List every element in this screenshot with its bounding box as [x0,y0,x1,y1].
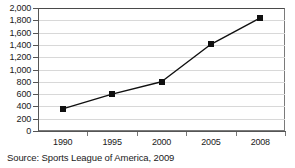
gridline [38,106,285,107]
source-note: Source: Sports League of America, 2009 [7,152,174,163]
y-axis-tick [33,57,38,58]
y-axis-tick [33,131,38,132]
y-axis-tick [33,119,38,120]
y-axis-tick-label: 400 [0,102,31,111]
gridline [38,33,285,34]
y-axis-tick-label: 1,800 [0,16,31,25]
y-axis-tick-label: 1,200 [0,53,31,62]
y-axis-tick-label: 1,600 [0,29,31,38]
x-axis-tick-label: 2000 [152,138,171,147]
gridline [38,20,285,21]
y-axis-tick [33,33,38,34]
y-axis-tick-label: 200 [0,115,31,124]
y-axis-tick [33,82,38,83]
y-axis-tick-label: 2,000 [0,4,31,13]
gridline [38,70,285,71]
y-axis-tick-label: 800 [0,78,31,87]
data-point-marker [257,15,263,21]
x-axis-tick-label: 2005 [201,138,220,147]
y-axis-tick-label: 0 [0,127,31,136]
x-axis-tick [87,132,88,136]
x-axis-line [38,131,286,132]
data-point-marker [109,91,115,97]
x-axis-tick-label: 1995 [102,138,121,147]
x-axis-tick-label: 2008 [251,138,270,147]
x-axis-tick [137,132,138,136]
data-point-marker [159,79,165,85]
y-axis-tick-label: 1,400 [0,41,31,50]
gridline [38,119,285,120]
gridline [38,45,285,46]
gridline [38,94,285,95]
x-axis-tick [236,132,237,136]
y-axis-line [38,8,39,132]
y-axis-tick [33,45,38,46]
y-axis-tick-label: 1,000 [0,66,31,75]
chart-figure: 02004006008001,0001,2001,4001,6001,8002,… [0,0,295,168]
x-axis-tick [285,132,286,136]
x-axis-tick [186,132,187,136]
y-axis-tick [33,20,38,21]
y-axis-tick [33,94,38,95]
data-point-marker [60,106,66,112]
y-axis-tick [33,70,38,71]
data-point-marker [208,41,214,47]
y-axis-tick [33,8,38,9]
gridline [38,57,285,58]
y-axis-tick [33,106,38,107]
x-axis-tick-label: 1990 [53,138,72,147]
y-axis-tick-label: 600 [0,90,31,99]
